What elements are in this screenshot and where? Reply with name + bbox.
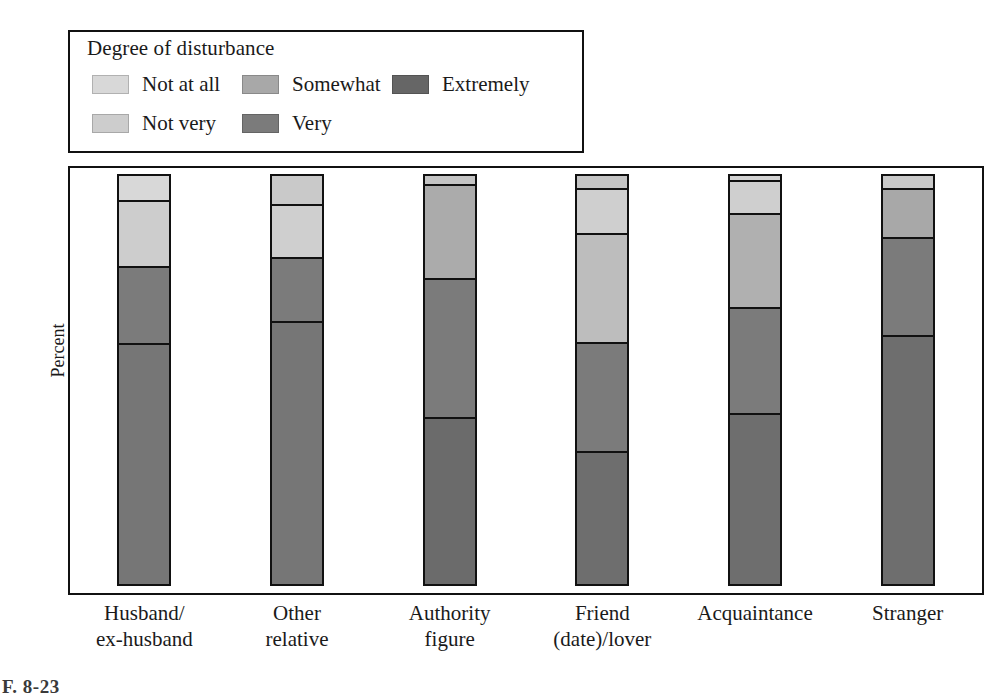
legend-label-very: Very xyxy=(292,111,332,136)
legend-swatch-somewhat xyxy=(242,75,279,94)
legend-item-not-very: Not very xyxy=(92,111,216,136)
legend-title: Degree of disturbance xyxy=(87,36,275,61)
stacked-bar[interactable]: 3122461 xyxy=(881,174,935,586)
bar-segment[interactable]: 61 xyxy=(883,335,933,584)
figure-caption: F. 8-23 xyxy=(2,676,60,698)
bar-segment[interactable]: 12 xyxy=(883,188,933,237)
x-tick-label: Stranger xyxy=(813,600,993,626)
legend-item-somewhat: Somewhat xyxy=(242,72,381,97)
legend-item-extremely: Extremely xyxy=(392,72,529,97)
bar-group: 3122461 xyxy=(68,166,984,595)
bar-segment[interactable]: 3 xyxy=(883,176,933,188)
x-tick-label-line1: Husband/ xyxy=(104,601,185,625)
legend-swatch-extremely xyxy=(392,75,429,94)
bars-layer: 6161959713166522334413112727331823264231… xyxy=(68,166,984,595)
legend-label-extremely: Extremely xyxy=(442,72,529,97)
legend-item-not-at-all: Not at all xyxy=(92,72,220,97)
x-axis-tick-labels: Husband/ex-husbandOtherrelativeAuthority… xyxy=(68,600,984,670)
chart-legend: Degree of disturbance Not at all Not ver… xyxy=(68,30,584,153)
x-tick-label-line1: Authority xyxy=(409,601,491,625)
x-tick-label-line1: Stranger xyxy=(872,601,943,625)
legend-label-somewhat: Somewhat xyxy=(292,72,381,97)
x-tick-label-line1: Friend xyxy=(575,601,630,625)
x-tick-label-line2: (date)/lover xyxy=(507,626,697,652)
legend-label-not-at-all: Not at all xyxy=(142,72,220,97)
x-tick-label-line1: Other xyxy=(273,601,321,625)
figure-container: Degree of disturbance Not at all Not ver… xyxy=(0,0,993,698)
legend-swatch-not-very xyxy=(92,114,129,133)
legend-item-very: Very xyxy=(242,111,332,136)
x-tick-label-line1: Acquaintance xyxy=(697,601,812,625)
bar-segment[interactable]: 24 xyxy=(883,237,933,335)
legend-swatch-very xyxy=(242,114,279,133)
legend-label-not-very: Not very xyxy=(142,111,216,136)
y-axis-label: Percent xyxy=(48,291,69,411)
legend-swatch-not-at-all xyxy=(92,75,129,94)
